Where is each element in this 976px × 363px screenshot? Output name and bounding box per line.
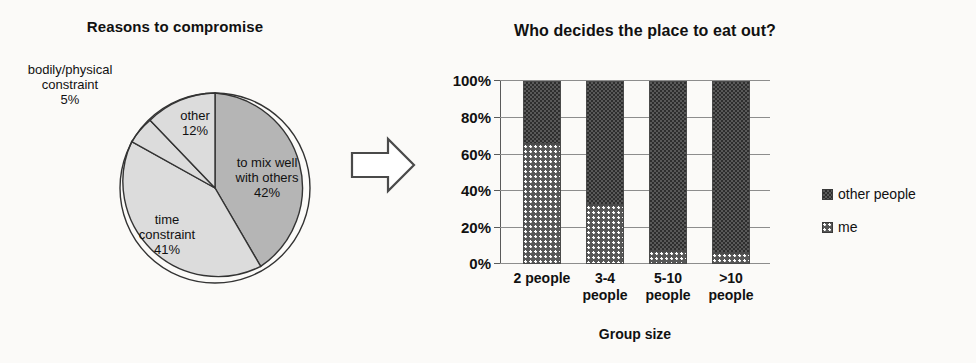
bar-segment-me[interactable]	[586, 205, 624, 264]
x-axis-label-3-4-people: 3-4 people	[582, 270, 627, 304]
legend-label-me: me	[838, 219, 857, 235]
legend-item-me[interactable]: me	[822, 219, 972, 235]
x-axis-label-2-people: 2 people	[514, 270, 571, 287]
y-axis-label-40: 40%	[461, 182, 491, 199]
pie-label-to-mix-well-with-others: to mix well with others 42%	[212, 155, 322, 200]
bar-5-10-people[interactable]	[649, 81, 687, 264]
y-tick-40	[494, 190, 500, 191]
legend-swatch-other-people	[822, 189, 833, 200]
legend-swatch-me	[822, 222, 833, 233]
bar-chart-legend: other people me	[822, 186, 972, 252]
x-axis-label-5-10-people: 5-10 people	[645, 270, 690, 304]
bar-chart-title: Who decides the place to eat out?	[420, 22, 870, 40]
y-tick-0	[494, 263, 500, 264]
bar-3-4-people[interactable]	[586, 81, 624, 264]
y-axis-line	[500, 80, 501, 264]
legend-label-other-people: other people	[838, 186, 916, 202]
bar-segment-other-people[interactable]	[649, 81, 687, 251]
bar-segment-other-people[interactable]	[712, 81, 750, 253]
pie-chart-panel: Reasons to compromise bodily/physical co…	[0, 0, 350, 363]
bar-chart-panel: Who decides the place to eat out? 100% 8…	[410, 0, 976, 363]
bar-segment-other-people[interactable]	[523, 81, 561, 144]
y-tick-60	[494, 154, 500, 155]
legend-item-other-people[interactable]: other people	[822, 186, 972, 202]
bar-segment-me[interactable]	[523, 144, 561, 264]
right-arrow-icon	[348, 133, 418, 197]
y-axis-label-0: 0%	[469, 255, 491, 272]
bar-chart-plot-area: 100% 80% 60% 40% 20% 0%	[500, 80, 770, 264]
y-axis-label-60: 60%	[461, 145, 491, 162]
pie-label-bodily-physical-constraint: bodily/physical constraint 5%	[2, 62, 138, 107]
bar-segment-other-people[interactable]	[586, 81, 624, 205]
x-axis-title: Group size	[500, 326, 770, 342]
pie-label-time-constraint: time constraint 41%	[112, 212, 222, 257]
bar-2-people[interactable]	[523, 81, 561, 264]
pie-chart-title: Reasons to compromise	[30, 18, 320, 35]
y-axis-label-80: 80%	[461, 108, 491, 125]
y-tick-80	[494, 117, 500, 118]
y-tick-20	[494, 227, 500, 228]
bar-segment-me[interactable]	[712, 253, 750, 264]
y-axis-label-100: 100%	[453, 72, 491, 89]
y-tick-100	[494, 80, 500, 81]
y-axis-label-20: 20%	[461, 219, 491, 236]
bar-over-10-people[interactable]	[712, 81, 750, 264]
pie-label-other: other 12%	[160, 108, 230, 138]
figure-canvas: Reasons to compromise bodily/physical co…	[0, 0, 976, 363]
x-axis-label-over-10-people: >10 people	[708, 270, 753, 304]
bar-segment-me[interactable]	[649, 251, 687, 264]
